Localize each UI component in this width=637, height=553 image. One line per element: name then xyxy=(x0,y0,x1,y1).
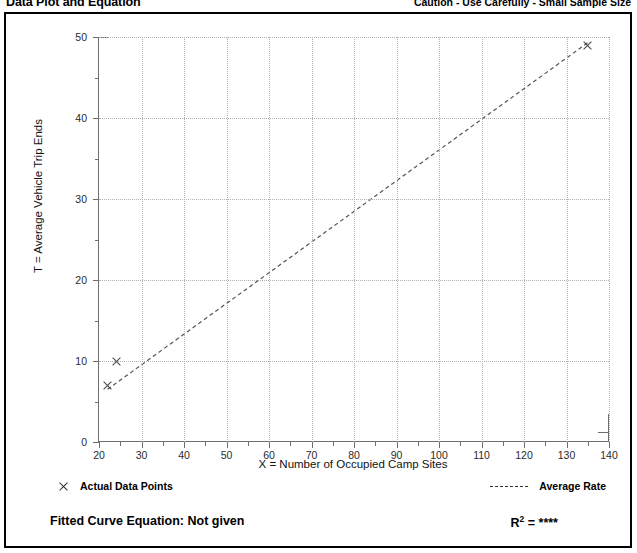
x-axis-tick xyxy=(439,442,440,448)
y-axis-minor-tick xyxy=(95,78,99,79)
x-axis-tick xyxy=(482,442,483,448)
chart-frame: 2030405060708090100110120130140010203040… xyxy=(4,12,632,548)
x-axis-tick xyxy=(99,442,100,448)
equation-row: Fitted Curve Equation: Not given R2 = **… xyxy=(6,514,630,540)
y-axis-minor-tick xyxy=(95,402,99,403)
fitted-curve-value: Not given xyxy=(188,514,245,528)
x-axis-minor-tick xyxy=(163,442,164,446)
gridline-vertical xyxy=(397,37,398,442)
x-axis-tick xyxy=(312,442,313,448)
gridline-vertical xyxy=(439,37,440,442)
x-axis-minor-tick xyxy=(248,442,249,446)
y-axis-minor-tick xyxy=(95,240,99,241)
y-axis-minor-tick xyxy=(95,159,99,160)
x-axis-minor-tick xyxy=(205,442,206,446)
r-squared: R2 = **** xyxy=(511,514,558,530)
x-axis-minor-tick xyxy=(418,442,419,446)
x-axis-tick xyxy=(354,442,355,448)
y-axis-minor-tick xyxy=(95,321,99,322)
legend-item-data-points: Actual Data Points xyxy=(58,480,173,492)
y-axis-tick xyxy=(93,280,99,281)
x-axis-tick xyxy=(269,442,270,448)
y-axis-tick-label: 20 xyxy=(75,274,87,286)
y-axis-tick xyxy=(93,118,99,119)
legend-label-data-points: Actual Data Points xyxy=(80,480,173,492)
gridline-horizontal xyxy=(99,118,609,119)
x-axis-minor-tick xyxy=(503,442,504,446)
legend-item-average-rate: Average Rate xyxy=(490,480,606,492)
x-axis-tick xyxy=(142,442,143,448)
average-rate-line xyxy=(108,43,588,390)
gridline-vertical xyxy=(609,37,610,442)
gridline-vertical xyxy=(142,37,143,442)
r-squared-equals: = xyxy=(524,516,538,530)
y-axis-tick xyxy=(93,442,99,443)
y-axis-tick-label: 30 xyxy=(75,193,87,205)
caution-note: Caution - Use Carefully - Small Sample S… xyxy=(414,0,631,8)
legend-label-average-rate: Average Rate xyxy=(539,480,606,492)
y-axis-title: T = Average Vehicle Trip Ends xyxy=(32,56,44,336)
x-axis-minor-tick xyxy=(545,442,546,446)
chart-legend: Actual Data Points Average Rate xyxy=(6,480,630,502)
x-axis-tick xyxy=(397,442,398,448)
x-axis-minor-tick xyxy=(290,442,291,446)
gridline-horizontal xyxy=(99,280,609,281)
r-squared-label: R xyxy=(511,516,520,530)
fitted-curve-equation: Fitted Curve Equation: Not given xyxy=(50,514,244,528)
chart-container: 2030405060708090100110120130140010203040… xyxy=(6,14,630,546)
x-axis-tick xyxy=(524,442,525,448)
y-axis-tick-label: 50 xyxy=(75,31,87,43)
gridline-vertical xyxy=(567,37,568,442)
x-axis-minor-tick xyxy=(460,442,461,446)
x-marker-icon xyxy=(58,481,69,492)
page-header: Data Plot and Equation Caution - Use Car… xyxy=(0,0,637,12)
x-axis-minor-tick xyxy=(375,442,376,446)
gridline-horizontal xyxy=(99,361,609,362)
x-axis-tick xyxy=(609,442,610,448)
x-axis-tick xyxy=(227,442,228,448)
y-axis-tick-label: 10 xyxy=(75,355,87,367)
gridline-vertical xyxy=(524,37,525,442)
gridline-vertical xyxy=(227,37,228,442)
y-axis-tick xyxy=(93,361,99,362)
y-axis-tick-label: 40 xyxy=(75,112,87,124)
gridline-vertical xyxy=(184,37,185,442)
dashed-line-icon xyxy=(490,486,528,487)
x-axis-minor-tick xyxy=(120,442,121,446)
gridline-vertical xyxy=(354,37,355,442)
x-axis-title: X = Number of Occupied Camp Sites xyxy=(98,458,608,470)
gridline-horizontal xyxy=(99,199,609,200)
x-axis-minor-tick xyxy=(588,442,589,446)
y-axis-tick-label: 0 xyxy=(81,436,87,448)
gridline-vertical xyxy=(482,37,483,442)
gridline-vertical xyxy=(269,37,270,442)
fitted-curve-label: Fitted Curve Equation: xyxy=(50,514,184,528)
gridline-horizontal xyxy=(99,37,609,38)
y-axis-tick xyxy=(93,37,99,38)
plot-area: 2030405060708090100110120130140010203040… xyxy=(98,37,608,442)
x-axis-tick xyxy=(567,442,568,448)
r-squared-value: **** xyxy=(539,516,558,530)
page-title: Data Plot and Equation xyxy=(6,0,141,9)
x-axis-tick xyxy=(184,442,185,448)
x-axis-minor-tick xyxy=(333,442,334,446)
y-axis-tick xyxy=(93,199,99,200)
gridline-vertical xyxy=(312,37,313,442)
